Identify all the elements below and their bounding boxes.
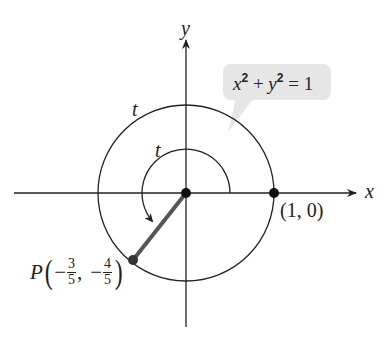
left-paren: (: [45, 255, 53, 289]
point-P: [128, 255, 138, 265]
point-1-0-label: (1, 0): [280, 199, 323, 222]
right-paren: ): [115, 255, 123, 289]
P-x-sign: −: [54, 260, 66, 285]
inner-arc-label-t: t: [155, 140, 161, 160]
origin-point: [181, 188, 191, 198]
P-sep: ,: [77, 260, 82, 285]
P-x-fraction: 35: [67, 257, 76, 287]
P-x-num: 3: [67, 257, 76, 273]
point-1-0: [269, 188, 279, 198]
P-y-den: 5: [104, 273, 111, 288]
P-y-num: 4: [103, 257, 112, 273]
y-axis-label: y: [181, 18, 190, 38]
unit-circle-equation: x2 + y2 = 1: [233, 71, 313, 95]
P-y-fraction: 45: [103, 257, 112, 287]
x-axis-label: x: [365, 181, 374, 201]
callout-pointer: [228, 98, 254, 132]
eq-y: y: [268, 73, 276, 94]
eq-plus: +: [248, 73, 268, 94]
radius-segment-to-P: [133, 193, 186, 260]
outer-arc-label-t: t: [132, 99, 138, 119]
P-name: P: [30, 260, 43, 285]
P-y-sign: −: [90, 260, 102, 285]
eq-rhs: = 1: [283, 73, 313, 94]
point-P-label: P ( − 35 , − 45 ): [30, 255, 124, 289]
P-x-den: 5: [68, 273, 75, 288]
